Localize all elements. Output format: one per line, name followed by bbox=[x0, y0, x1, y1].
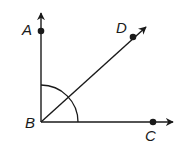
label-b: B bbox=[25, 114, 35, 131]
label-d: D bbox=[116, 19, 127, 36]
ray-bd bbox=[41, 27, 146, 122]
angle-diagram: A D C B bbox=[0, 0, 184, 148]
diagram-canvas: A D C B bbox=[0, 0, 184, 148]
point-c bbox=[150, 119, 157, 126]
point-a bbox=[38, 28, 45, 35]
label-a: A bbox=[21, 21, 32, 38]
point-d bbox=[130, 34, 137, 41]
label-c: C bbox=[145, 127, 156, 144]
